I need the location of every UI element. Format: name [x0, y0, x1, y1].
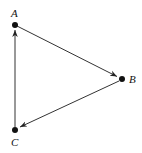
node-a	[12, 22, 18, 28]
edge-a-to-b	[17, 26, 117, 77]
node-b-label: B	[129, 73, 136, 85]
edge-b-to-c	[20, 81, 119, 127]
node-c	[12, 127, 18, 133]
node-a-label: A	[10, 7, 18, 19]
node-b	[119, 76, 125, 82]
node-c-label: C	[11, 136, 19, 148]
triangle-graph: A B C	[0, 0, 142, 153]
diagram-canvas: A B C	[0, 0, 142, 153]
